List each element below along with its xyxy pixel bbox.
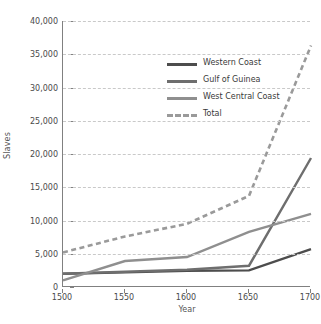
legend-item-label: Gulf of Guinea (203, 75, 261, 84)
gridline (63, 121, 310, 122)
chart-figure: Slaves 05,00010,00015,00020,00025,00030,… (0, 0, 321, 324)
gridline (63, 254, 310, 255)
legend-item-label: West Central Coast (203, 92, 280, 101)
y-tick-label: 5,000 (16, 249, 58, 258)
y-tick-mark (70, 287, 74, 288)
legend-item-label: Western Coast (203, 58, 261, 67)
legend-item[interactable]: Total (167, 105, 317, 122)
legend-swatch-icon (167, 109, 197, 119)
x-tick-label: 1500 (39, 293, 85, 302)
legend-swatch-icon (167, 92, 197, 102)
gridline (63, 187, 310, 188)
x-tick-label: 1600 (163, 293, 209, 302)
legend-item[interactable]: Gulf of Guinea (167, 71, 317, 88)
gridline (63, 221, 310, 222)
y-tick-label: 20,000 (16, 150, 58, 159)
legend-item[interactable]: West Central Coast (167, 88, 317, 105)
gridline (63, 54, 310, 55)
legend-swatch-icon (167, 58, 197, 68)
legend-item-label: Total (203, 109, 222, 118)
x-tick-label: 1650 (225, 293, 271, 302)
x-axis-tick-labels: 15001550160016501700 (62, 289, 310, 303)
y-axis-tick-labels: 05,00010,00015,00020,00025,00030,00035,0… (12, 21, 58, 287)
legend-item[interactable]: Western Coast (167, 54, 317, 71)
plot-area: Western CoastGulf of GuineaWest Central … (62, 21, 310, 287)
x-axis-title-text: Year (179, 305, 196, 314)
y-tick-label: 15,000 (16, 183, 58, 192)
y-tick-label: 10,000 (16, 216, 58, 225)
y-tick-label: 35,000 (16, 50, 58, 59)
gridline (63, 88, 310, 89)
x-tick-label: 1550 (101, 293, 147, 302)
y-tick-label: 40,000 (16, 17, 58, 26)
y-tick-label: 30,000 (16, 83, 58, 92)
y-tick-label: 25,000 (16, 116, 58, 125)
legend-swatch-icon (167, 75, 197, 85)
x-tick-label: 1700 (287, 293, 321, 302)
gridline (63, 154, 310, 155)
y-tick-label: 0 (16, 283, 58, 292)
x-axis-title: Year (62, 305, 312, 314)
gridline (63, 21, 310, 22)
